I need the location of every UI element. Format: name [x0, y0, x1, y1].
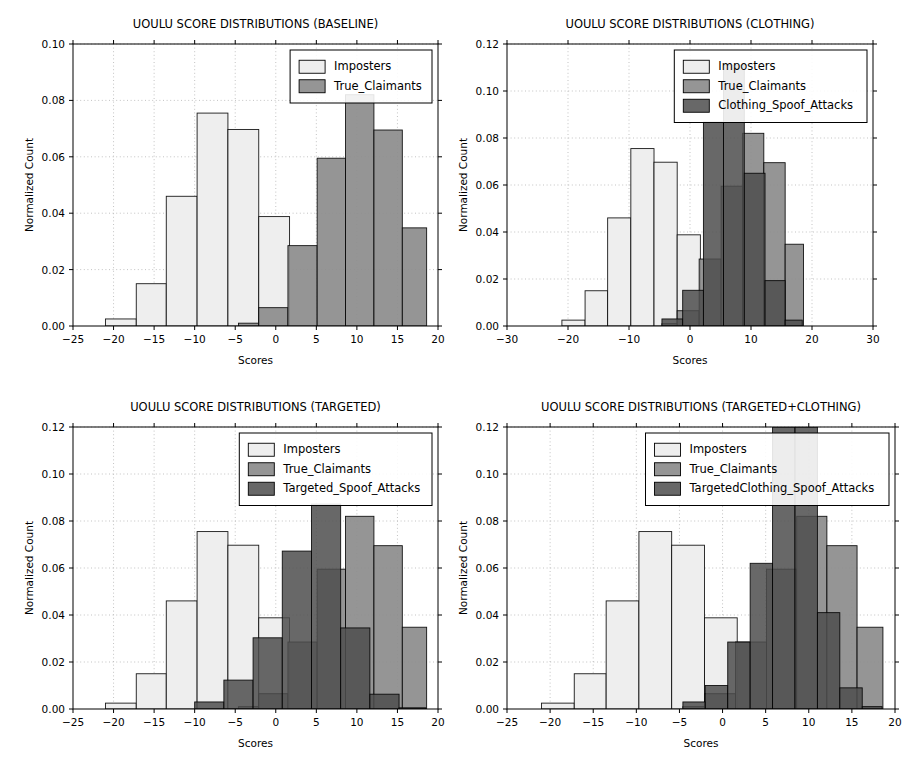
y-tick-label: 0.04 [476, 609, 500, 621]
x-tick-label: 15 [391, 716, 404, 728]
histogram-bar [136, 284, 166, 326]
histogram-bar [541, 703, 574, 709]
histogram-bar [631, 149, 654, 326]
legend-swatch [655, 443, 681, 456]
legend-swatch [248, 443, 274, 456]
y-tick-label: 0.04 [42, 609, 66, 621]
histogram-bar [662, 319, 683, 326]
histogram-bar [585, 291, 608, 326]
histogram-bar [728, 642, 750, 709]
histogram-bar [765, 281, 785, 326]
legend-swatch [248, 463, 274, 476]
legend-label: True_Claimants [333, 79, 422, 93]
histogram-bar [228, 129, 259, 326]
y-axis-label: Normalized Count [23, 138, 35, 232]
y-tick-label: 0.02 [476, 656, 499, 668]
x-tick-label: 10 [802, 716, 815, 728]
x-axis-label: Scores [673, 354, 708, 366]
x-tick-label: 10 [350, 716, 363, 728]
legend-label: Imposters [690, 442, 747, 456]
histogram-bar [374, 130, 402, 326]
x-tick-label: 5 [762, 716, 769, 728]
legend-swatch [248, 482, 274, 495]
x-tick-label: 15 [845, 716, 858, 728]
histogram-bar [224, 680, 253, 709]
histogram-bar [105, 703, 136, 709]
bars-group [105, 504, 426, 709]
histogram-bar [166, 601, 197, 709]
y-axis-label: Normalized Count [457, 521, 469, 615]
series-imposters [105, 113, 289, 326]
histogram-bar [574, 674, 606, 709]
y-tick-label: 0.10 [42, 38, 65, 50]
y-tick-label: 0.12 [476, 38, 499, 50]
x-tick-label: −5 [227, 333, 242, 345]
histogram-bar [370, 694, 399, 709]
histogram-bar [402, 228, 426, 326]
histogram-bar [402, 627, 426, 709]
x-tick-label: 15 [391, 333, 404, 345]
histogram-bar [166, 196, 197, 326]
x-tick-label: 0 [272, 716, 279, 728]
y-tick-label: 0.10 [476, 85, 499, 97]
x-tick-label: −15 [143, 333, 165, 345]
y-tick-label: 0.08 [42, 515, 65, 527]
histogram-bar [785, 244, 803, 326]
histogram-bar [282, 551, 311, 709]
y-tick-label: 0.00 [476, 320, 499, 332]
histogram-bar [288, 246, 317, 326]
x-tick-label: 5 [313, 716, 320, 728]
x-axis-label: Scores [238, 354, 273, 366]
x-tick-label: −10 [625, 716, 647, 728]
legend: ImpostersTrue_Claimants [290, 50, 432, 103]
x-tick-label: −5 [672, 716, 687, 728]
legend-swatch [655, 482, 681, 495]
histogram-bar [606, 601, 639, 709]
histogram-bar [197, 113, 228, 326]
x-tick-label: 0 [272, 333, 279, 345]
legend-label: True_Claimants [282, 462, 371, 476]
x-tick-label: −25 [62, 333, 84, 345]
legend-label: Imposters [283, 442, 340, 456]
histogram-bar [705, 686, 727, 710]
legend-swatch [683, 99, 709, 112]
figure-canvas: UOULU SCORE DISTRIBUTIONS (BASELINE)−25−… [0, 0, 915, 767]
x-tick-label: −5 [227, 716, 242, 728]
y-tick-label: 0.12 [476, 421, 499, 433]
x-tick-label: 10 [744, 333, 757, 345]
histogram-bar [817, 613, 839, 709]
histogram-bar [672, 545, 705, 709]
x-tick-label: 0 [687, 333, 694, 345]
y-tick-label: 0.02 [42, 264, 65, 276]
histogram-bar [562, 320, 585, 326]
y-tick-label: 0.00 [42, 320, 65, 332]
y-tick-label: 0.02 [476, 273, 499, 285]
x-tick-label: 20 [805, 333, 818, 345]
y-tick-label: 0.10 [476, 468, 499, 480]
chart-title: UOULU SCORE DISTRIBUTIONS (BASELINE) [133, 17, 378, 31]
histogram-bar [317, 158, 345, 326]
x-tick-label: 20 [431, 716, 444, 728]
x-tick-label: −30 [496, 333, 518, 345]
chart-title: UOULU SCORE DISTRIBUTIONS (TARGETED) [130, 400, 381, 414]
histogram-bar [744, 173, 765, 326]
x-tick-label: −25 [62, 716, 84, 728]
y-tick-label: 0.06 [476, 179, 500, 191]
histogram-bar [346, 95, 374, 326]
histogram-bar [683, 702, 705, 709]
y-tick-label: 0.08 [42, 94, 65, 106]
legend-swatch [683, 60, 709, 73]
bars-group [105, 95, 426, 326]
chart-title: UOULU SCORE DISTRIBUTIONS (CLOTHING) [565, 17, 814, 31]
legend: ImpostersTrue_ClaimantsClothing_Spoof_At… [674, 50, 867, 123]
y-tick-label: 0.04 [476, 226, 500, 238]
y-tick-label: 0.06 [42, 562, 66, 574]
legend-swatch [299, 80, 325, 93]
histogram-bar [136, 674, 166, 709]
y-tick-label: 0.00 [476, 703, 499, 715]
x-tick-label: −20 [102, 333, 124, 345]
histogram-bar [341, 628, 370, 709]
x-tick-label: 5 [313, 333, 320, 345]
series-imposters [541, 532, 737, 709]
legend: ImpostersTrue_ClaimantsTargeted_Spoof_At… [239, 433, 432, 506]
